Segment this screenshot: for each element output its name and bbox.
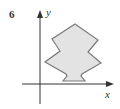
coordinate-plot [0, 0, 120, 109]
region-shape [45, 24, 101, 81]
y-axis-arrow-icon [37, 10, 43, 18]
x-axis-label: x [105, 88, 110, 100]
x-axis-arrow-icon [106, 81, 114, 87]
y-axis-label: y [46, 6, 51, 18]
